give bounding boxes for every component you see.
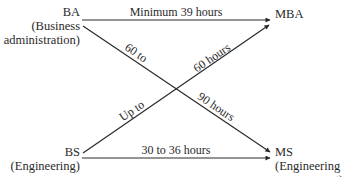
- edge-bs-mba-label-2: 60 hours: [191, 40, 234, 75]
- diagram-canvas: Minimum 39 hours 60 to 90 hours Up to 60…: [0, 0, 347, 177]
- edge-bs-ms-label: 30 to 36 hours: [142, 143, 211, 157]
- edge-ba-ms-label-2: 90 hours: [195, 89, 238, 124]
- edge-ba-mba-label: Minimum 39 hours: [130, 5, 223, 19]
